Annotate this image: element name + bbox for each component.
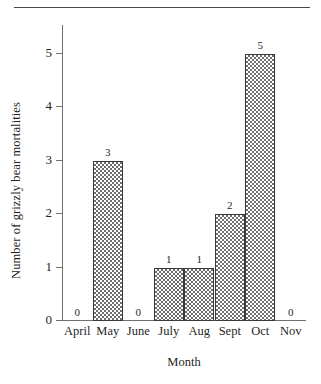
bar-slot: 0	[276, 26, 307, 321]
bar-slot: 0	[62, 26, 93, 321]
bar-value-label: 0	[136, 306, 142, 318]
bar-value-label: 0	[75, 306, 81, 318]
bar-slot: 5	[245, 26, 276, 321]
x-tick-label: July	[154, 323, 185, 340]
x-tick-label: Nov	[276, 323, 307, 340]
x-axis-tick-labels: AprilMayJuneJulyAugSeptOctNov	[62, 323, 306, 341]
bar[interactable]	[93, 161, 123, 321]
bar-value-label: 5	[258, 39, 264, 51]
x-tick-label: June	[123, 323, 154, 340]
bar-value-label: 1	[166, 253, 172, 265]
bar-value-label: 3	[105, 146, 111, 158]
x-axis-title: Month	[62, 355, 306, 370]
bar-value-label: 0	[288, 306, 294, 318]
y-tick-label-5: 5	[46, 45, 53, 61]
x-tick-label: April	[62, 323, 93, 340]
x-tick-label: Oct	[245, 323, 276, 340]
plot-area: 012345 03011250	[62, 25, 306, 321]
y-axis-title: Number of grizzly bear mortalities	[6, 60, 26, 320]
top-divider-rule	[14, 7, 310, 8]
bar[interactable]	[154, 268, 184, 321]
grizzly-bear-mortality-figure: Number of grizzly bear mortalities 01234…	[0, 0, 321, 384]
y-tick-label-1: 1	[46, 259, 53, 275]
bar[interactable]	[184, 268, 214, 321]
bar-slot: 2	[215, 26, 246, 321]
bar-slot: 1	[184, 26, 215, 321]
bar[interactable]	[215, 214, 245, 321]
y-tick-label-4: 4	[46, 98, 53, 114]
y-tick-label-0: 0	[46, 312, 53, 328]
bar-slot: 3	[93, 26, 124, 321]
bar-value-label: 1	[197, 253, 203, 265]
bar[interactable]	[245, 54, 275, 321]
x-tick-label: May	[93, 323, 124, 340]
y-tick-label-3: 3	[46, 152, 53, 168]
bar-slot: 1	[154, 26, 185, 321]
x-tick-label: Sept	[215, 323, 246, 340]
bar-value-label: 2	[227, 199, 233, 211]
bar-series: 03011250	[62, 26, 306, 321]
bar-slot: 0	[123, 26, 154, 321]
x-tick-label: Aug	[184, 323, 215, 340]
y-tick-label-2: 2	[46, 205, 53, 221]
y-axis-title-text: Number of grizzly bear mortalities	[9, 102, 24, 279]
